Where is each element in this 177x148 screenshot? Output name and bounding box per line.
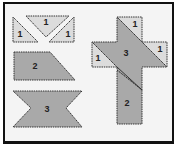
cross-left-label: 1 xyxy=(95,53,100,63)
cross-figure: 1 1 1 3 2 xyxy=(92,17,167,124)
triangle-right-label: 1 xyxy=(65,29,70,39)
bowtie-piece: 3 xyxy=(13,91,82,127)
trapezoid-piece: 2 xyxy=(14,52,75,80)
cross-bottom-label: 2 xyxy=(124,98,129,108)
cross-right-label: 1 xyxy=(157,44,162,54)
bowtie-label: 3 xyxy=(44,104,49,114)
cross-top-label: 1 xyxy=(132,19,137,29)
triangle-top-label: 1 xyxy=(43,17,48,27)
tangram-diagram: 1 1 1 2 3 1 1 1 3 2 xyxy=(0,0,177,148)
cross-center-label: 3 xyxy=(123,48,128,58)
trapezoid-label: 2 xyxy=(32,61,37,71)
triangle-left-label: 1 xyxy=(17,29,22,39)
